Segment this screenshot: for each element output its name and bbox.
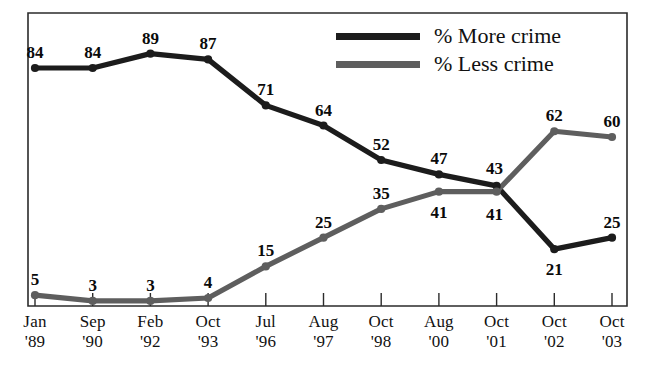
value-label-less-10: 60 — [592, 113, 632, 131]
x-axis-label-month: Sep — [62, 312, 124, 332]
x-axis-label-year: '01 — [466, 332, 528, 352]
data-point-marker[interactable] — [608, 234, 616, 242]
x-axis-label-0: Jan'89 — [4, 312, 66, 352]
x-axis-label-4: Jul'96 — [235, 312, 297, 352]
x-axis-label-month: Aug — [293, 312, 355, 332]
x-axis-label-month: Oct — [581, 312, 643, 332]
x-axis-label-month: Oct — [466, 312, 528, 332]
value-label-more-3: 87 — [188, 35, 228, 53]
data-point-marker[interactable] — [377, 205, 385, 213]
x-axis-label-year: '98 — [350, 332, 412, 352]
x-axis-label-2: Feb'92 — [119, 312, 181, 352]
data-point-marker[interactable] — [319, 234, 327, 242]
value-label-more-4: 71 — [246, 81, 286, 99]
data-point-marker[interactable] — [204, 55, 212, 63]
x-axis-label-year: '97 — [293, 332, 355, 352]
data-point-marker[interactable] — [89, 64, 97, 72]
value-label-more-1: 84 — [73, 44, 113, 62]
series-lines — [35, 54, 612, 301]
x-axis-label-6: Oct'98 — [350, 312, 412, 352]
x-axis-label-month: Oct — [350, 312, 412, 332]
legend-item-more-crime[interactable]: % More crime — [336, 22, 606, 50]
value-label-more-0: 84 — [15, 44, 55, 62]
value-label-more-10: 25 — [592, 214, 632, 232]
x-axis-label-10: Oct'03 — [581, 312, 643, 352]
x-axis-label-year: '89 — [4, 332, 66, 352]
x-axis-label-month: Feb — [119, 312, 181, 332]
data-point-marker[interactable] — [435, 170, 443, 178]
data-point-marker[interactable] — [319, 121, 327, 129]
data-point-marker[interactable] — [435, 188, 443, 196]
value-label-less-6: 35 — [361, 185, 401, 203]
data-point-marker[interactable] — [31, 291, 39, 299]
legend-label-more-crime: % More crime — [434, 23, 561, 49]
value-label-less-3: 4 — [188, 274, 228, 292]
legend-swatch-more-crime — [336, 33, 420, 40]
value-label-more-8: 43 — [475, 160, 515, 178]
data-point-marker[interactable] — [550, 127, 558, 135]
data-point-marker[interactable] — [262, 101, 270, 109]
data-point-marker[interactable] — [89, 297, 97, 305]
data-point-marker[interactable] — [608, 133, 616, 141]
x-axis-label-month: Oct — [177, 312, 239, 332]
legend-swatch-less-crime — [336, 61, 420, 68]
x-axis-label-year: '03 — [581, 332, 643, 352]
value-label-less-2: 3 — [130, 277, 170, 295]
value-label-less-1: 3 — [73, 277, 113, 295]
value-label-less-4: 15 — [246, 242, 286, 260]
x-axis-label-month: Oct — [523, 312, 585, 332]
data-point-marker[interactable] — [146, 297, 154, 305]
value-label-more-2: 89 — [130, 30, 170, 48]
value-label-more-7: 47 — [419, 150, 459, 168]
series-markers — [31, 50, 616, 305]
data-point-marker[interactable] — [493, 188, 501, 196]
legend-item-less-crime[interactable]: % Less crime — [336, 50, 606, 78]
data-point-marker[interactable] — [204, 294, 212, 302]
x-axis-label-year: '00 — [408, 332, 470, 352]
value-label-more-6: 52 — [361, 136, 401, 154]
value-label-less-0: 5 — [15, 271, 55, 289]
data-point-marker[interactable] — [262, 262, 270, 270]
x-axis-label-5: Aug'97 — [293, 312, 355, 352]
value-label-less-9: 62 — [534, 107, 574, 125]
value-label-less-8: 41 — [475, 206, 515, 224]
x-axis-label-1: Sep'90 — [62, 312, 124, 352]
data-point-marker[interactable] — [550, 245, 558, 253]
value-label-less-7: 41 — [419, 204, 459, 222]
x-axis-label-month: Aug — [408, 312, 470, 332]
value-label-more-5: 64 — [304, 102, 344, 120]
crime-perception-line-chart: Jan'89Sep'90Feb'92Oct'93Jul'96Aug'97Oct'… — [0, 0, 654, 374]
x-axis-label-8: Oct'01 — [466, 312, 528, 352]
legend-label-less-crime: % Less crime — [434, 51, 554, 77]
x-axis-label-year: '92 — [119, 332, 181, 352]
x-axis-label-year: '02 — [523, 332, 585, 352]
value-label-more-9: 21 — [534, 261, 574, 279]
x-axis-label-year: '90 — [62, 332, 124, 352]
x-axis-label-month: Jul — [235, 312, 297, 332]
data-point-marker[interactable] — [377, 156, 385, 164]
x-axis-label-3: Oct'93 — [177, 312, 239, 352]
x-axis-label-9: Oct'02 — [523, 312, 585, 352]
chart-legend: % More crime % Less crime — [336, 22, 606, 78]
value-label-less-5: 25 — [304, 214, 344, 232]
x-axis-label-month: Jan — [4, 312, 66, 332]
data-point-marker[interactable] — [31, 64, 39, 72]
data-point-marker[interactable] — [146, 50, 154, 58]
x-axis-label-year: '96 — [235, 332, 297, 352]
x-axis-label-7: Aug'00 — [408, 312, 470, 352]
x-axis-label-year: '93 — [177, 332, 239, 352]
